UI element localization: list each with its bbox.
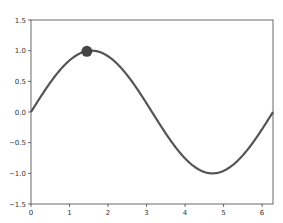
y-tick-label: −1.0: [9, 170, 26, 178]
x-tick-label: 1: [67, 209, 71, 217]
y-tick-label: 0.0: [15, 109, 26, 117]
y-tick-label: −1.5: [9, 201, 26, 209]
series-line-sin: [31, 51, 273, 174]
x-tick-label: 5: [221, 209, 225, 217]
y-tick-label: 1.5: [15, 17, 26, 25]
chart: 0123456 −1.5−1.0−0.50.00.51.01.5: [0, 0, 283, 223]
x-tick-label: 6: [260, 209, 265, 217]
x-axis: 0123456: [29, 204, 265, 217]
data-point-marker: [81, 46, 92, 57]
x-tick-label: 3: [144, 209, 148, 217]
x-tick-label: 0: [29, 209, 33, 217]
y-axis: −1.5−1.0−0.50.00.51.01.5: [9, 17, 31, 209]
y-tick-label: 1.0: [15, 47, 26, 55]
x-tick-label: 2: [106, 209, 110, 217]
x-tick-label: 4: [183, 209, 188, 217]
y-tick-label: 0.5: [15, 78, 26, 86]
y-tick-label: −0.5: [9, 139, 26, 147]
